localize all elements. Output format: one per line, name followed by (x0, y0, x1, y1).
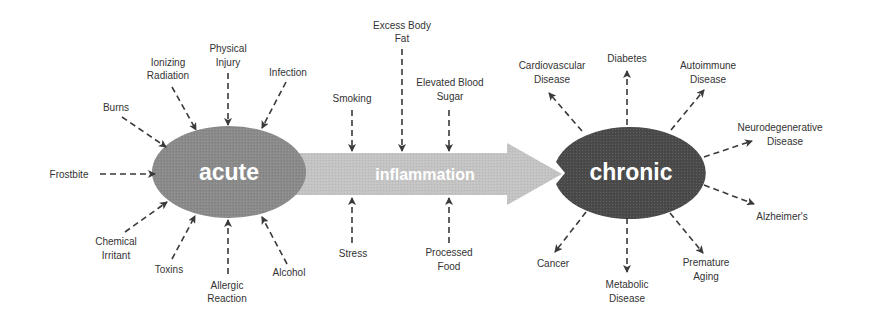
inflammation-arrow: inflammation (292, 143, 562, 205)
label-cardiovascular-disease-2: Disease (534, 74, 571, 85)
chronic-node: chronic (556, 127, 706, 219)
arrow-autoimmune-disease (671, 90, 704, 130)
label-ionizing-radiation-1: Ionizing (151, 57, 185, 68)
arrow-toxins (172, 216, 195, 259)
label-allergic-reaction-2: Reaction (207, 293, 246, 304)
label-toxins: Toxins (155, 264, 183, 275)
acute-node: acute (152, 126, 306, 218)
inflammation-diagram: inflammation acute chronic (0, 0, 874, 325)
label-burns: Burns (103, 102, 129, 113)
label-chemical-irritant-1: Chemical (95, 236, 137, 247)
arrow-infection (262, 82, 286, 128)
arrow-cardiovascular-disease (549, 93, 582, 131)
label-neurodegenerative-disease-2: Disease (767, 136, 804, 147)
label-processed-food-1: Processed (425, 247, 472, 258)
label-smoking: Smoking (333, 93, 372, 104)
label-metabolic-disease-2: Disease (609, 293, 646, 304)
arrow-chemical-irritant (125, 202, 167, 232)
label-stress: Stress (339, 248, 367, 259)
label-excess-body-fat-2: Fat (395, 33, 410, 44)
label-physical-injury-1: Physical (209, 43, 246, 54)
label-metabolic-disease-1: Metabolic (606, 279, 649, 290)
label-frostbite: Frostbite (50, 169, 89, 180)
label-elevated-blood-sugar-1: Elevated Blood (416, 77, 483, 88)
label-allergic-reaction-1: Allergic (211, 280, 244, 291)
label-cancer: Cancer (537, 258, 570, 269)
label-premature-aging-1: Premature (683, 257, 730, 268)
acute-label: acute (199, 159, 259, 185)
chronic-label: chronic (589, 159, 672, 185)
label-neurodegenerative-disease-1: Neurodegenerative (737, 122, 822, 133)
inflammation-label: inflammation (375, 166, 475, 183)
inflammation-factor-labels: Smoking Excess Body Fat Elevated Blood S… (333, 20, 484, 272)
label-diabetes: Diabetes (607, 53, 646, 64)
arrow-cancer (555, 212, 586, 252)
label-premature-aging-2: Aging (693, 271, 719, 282)
label-processed-food-2: Food (438, 261, 461, 272)
arrow-premature-aging (670, 213, 703, 253)
label-ionizing-radiation-2: Radiation (147, 70, 189, 81)
label-alzheimers: Alzheimer's (756, 211, 807, 222)
arrow-ionizing-radiation (172, 87, 196, 130)
label-physical-injury-2: Injury (216, 57, 240, 68)
label-autoimmune-disease-2: Disease (690, 74, 727, 85)
arrow-alcohol (262, 217, 287, 264)
label-infection: Infection (269, 67, 307, 78)
label-excess-body-fat-1: Excess Body (373, 20, 431, 31)
arrow-burns (122, 117, 166, 147)
label-cardiovascular-disease-1: Cardiovascular (519, 60, 586, 71)
label-alcohol: Alcohol (273, 267, 306, 278)
label-chemical-irritant-2: Irritant (102, 250, 131, 261)
arrow-alzheimers (704, 185, 754, 204)
arrow-neurodegenerative-disease (704, 141, 752, 157)
label-autoimmune-disease-1: Autoimmune (680, 60, 737, 71)
label-elevated-blood-sugar-2: Sugar (437, 91, 464, 102)
